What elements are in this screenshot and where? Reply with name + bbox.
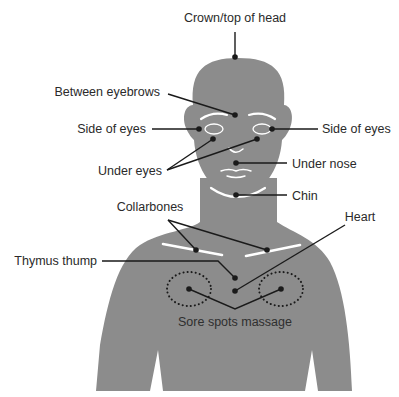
label-thymus-thump: Thymus thump <box>14 254 97 268</box>
label-side-of-eyes-right: Side of eyes <box>322 122 391 136</box>
under-nose-dot <box>233 160 239 166</box>
label-side-of-eyes-left: Side of eyes <box>77 122 146 136</box>
between-eyebrows-dot <box>232 112 238 118</box>
body-silhouette <box>96 58 352 391</box>
label-heart: Heart <box>345 210 376 224</box>
label-chin: Chin <box>292 189 318 203</box>
crown-dot <box>232 54 238 60</box>
collarbone-left-dot <box>193 247 199 253</box>
under-eyes-right-dot <box>254 136 260 142</box>
thymus-dot <box>232 275 238 281</box>
under-eyes-left-dot <box>210 136 216 142</box>
tapping-points-diagram: Crown/top of head Between eyebrows Side … <box>0 0 399 397</box>
sore-spot-right-dot <box>278 286 284 292</box>
chin-dot <box>233 192 239 198</box>
collarbone-right-dot <box>264 247 270 253</box>
side-of-eyes-right-dot <box>269 126 275 132</box>
label-under-nose: Under nose <box>292 157 357 171</box>
label-under-eyes: Under eyes <box>98 164 162 178</box>
label-crown: Crown/top of head <box>184 11 286 25</box>
sore-spot-left-dot <box>186 286 192 292</box>
label-sore-spots: Sore spots massage <box>178 315 292 329</box>
side-of-eyes-left-dot <box>196 126 202 132</box>
label-between-eyebrows: Between eyebrows <box>54 85 160 99</box>
label-collarbones: Collarbones <box>117 200 184 214</box>
torso-shape <box>96 205 352 391</box>
heart-dot <box>232 288 238 294</box>
